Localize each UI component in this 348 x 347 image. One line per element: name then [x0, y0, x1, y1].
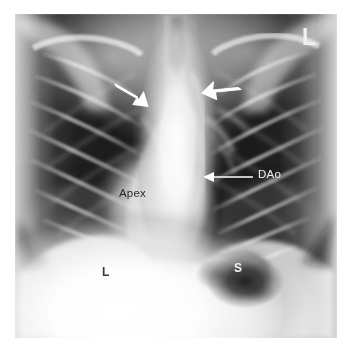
label-cardiac-apex: Apex: [119, 188, 146, 200]
label-descending-aorta: DAo: [258, 169, 281, 181]
chest-radiograph-figure: DAo Apex L S L: [0, 0, 348, 347]
label-liver: L: [102, 266, 109, 278]
label-left-side-marker: L: [302, 26, 316, 49]
plate-inner-border: [15, 14, 337, 338]
radiograph-plate: [15, 14, 337, 338]
label-stomach-gas: S: [234, 262, 242, 274]
